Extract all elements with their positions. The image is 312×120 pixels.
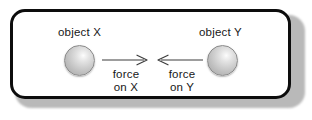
diagram-frame [10,9,291,99]
object-y-label: object Y [199,26,242,38]
force-on-x-label-line1: force [104,68,148,81]
force-pair-diagram: object X force on X force on Y object Y [0,0,312,120]
force-on-y-label: force on Y [160,68,204,93]
force-on-x-label-line2: on X [104,81,148,94]
arrow-left-icon [155,53,203,67]
arrow-right-icon [102,53,150,67]
object-x-label: object X [58,26,101,38]
force-on-x-label: force on X [104,68,148,93]
force-on-y-label-line1: force [160,68,204,81]
force-on-y-label-line2: on Y [160,81,204,94]
object-y-sphere-icon [207,45,238,76]
object-x-sphere-icon [64,45,95,76]
